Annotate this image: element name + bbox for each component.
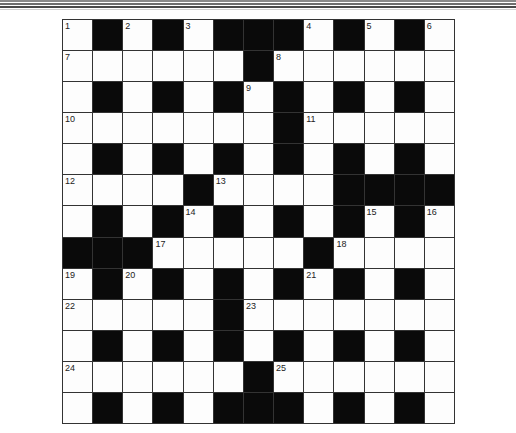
crossword-cell[interactable]: 15 [365,206,394,236]
crossword-cell[interactable] [63,82,92,112]
crossword-cell[interactable] [93,113,122,143]
crossword-cell[interactable] [304,331,333,361]
crossword-cell[interactable] [123,393,152,423]
crossword-cell[interactable] [274,238,303,268]
crossword-cell[interactable]: 21 [304,269,333,299]
crossword-cell[interactable]: 6 [425,20,454,50]
crossword-cell[interactable]: 8 [274,51,303,81]
crossword-cell[interactable] [425,82,454,112]
crossword-cell[interactable] [153,300,182,330]
crossword-cell[interactable] [425,300,454,330]
crossword-cell[interactable] [304,51,333,81]
crossword-cell[interactable] [93,51,122,81]
crossword-cell[interactable] [184,51,213,81]
crossword-cell[interactable]: 22 [63,300,92,330]
crossword-cell[interactable] [184,113,213,143]
crossword-cell[interactable] [304,82,333,112]
crossword-cell[interactable] [274,300,303,330]
crossword-cell[interactable]: 19 [63,269,92,299]
crossword-cell[interactable] [304,300,333,330]
crossword-cell[interactable] [153,113,182,143]
crossword-cell[interactable]: 13 [214,175,243,205]
crossword-cell[interactable] [63,393,92,423]
crossword-cell[interactable] [365,82,394,112]
crossword-cell[interactable] [123,175,152,205]
crossword-cell[interactable] [395,362,424,392]
crossword-cell[interactable] [395,300,424,330]
crossword-cell[interactable] [304,393,333,423]
crossword-cell[interactable]: 2 [123,20,152,50]
crossword-cell[interactable] [244,331,273,361]
crossword-cell[interactable] [214,113,243,143]
crossword-cell[interactable] [395,238,424,268]
crossword-cell[interactable] [184,300,213,330]
crossword-cell[interactable] [304,175,333,205]
crossword-cell[interactable] [365,300,394,330]
crossword-cell[interactable]: 5 [365,20,394,50]
crossword-cell[interactable] [123,331,152,361]
crossword-cell[interactable] [93,175,122,205]
crossword-cell[interactable] [123,51,152,81]
crossword-cell[interactable] [214,238,243,268]
crossword-cell[interactable] [425,331,454,361]
crossword-cell[interactable] [63,331,92,361]
crossword-cell[interactable] [184,331,213,361]
crossword-cell[interactable] [93,300,122,330]
crossword-cell[interactable] [214,362,243,392]
crossword-cell[interactable] [184,238,213,268]
crossword-cell[interactable] [123,300,152,330]
crossword-cell[interactable] [395,113,424,143]
crossword-cell[interactable]: 4 [304,20,333,50]
crossword-cell[interactable] [365,238,394,268]
crossword-cell[interactable] [425,393,454,423]
crossword-cell[interactable] [63,144,92,174]
crossword-cell[interactable] [334,362,363,392]
crossword-cell[interactable] [184,144,213,174]
crossword-cell[interactable] [365,331,394,361]
crossword-cell[interactable]: 23 [244,300,273,330]
crossword-cell[interactable] [93,362,122,392]
crossword-cell[interactable] [153,175,182,205]
crossword-cell[interactable] [425,238,454,268]
crossword-cell[interactable] [304,362,333,392]
crossword-cell[interactable]: 16 [425,206,454,236]
crossword-cell[interactable] [63,206,92,236]
crossword-cell[interactable] [123,362,152,392]
crossword-cell[interactable]: 24 [63,362,92,392]
crossword-cell[interactable] [365,144,394,174]
crossword-cell[interactable]: 18 [334,238,363,268]
crossword-cell[interactable] [365,362,394,392]
crossword-cell[interactable] [425,51,454,81]
crossword-cell[interactable] [395,51,424,81]
crossword-cell[interactable] [425,144,454,174]
crossword-cell[interactable] [425,362,454,392]
crossword-cell[interactable]: 25 [274,362,303,392]
crossword-cell[interactable] [153,362,182,392]
crossword-cell[interactable]: 14 [184,206,213,236]
crossword-cell[interactable]: 10 [63,113,92,143]
crossword-cell[interactable] [274,175,303,205]
crossword-cell[interactable] [425,113,454,143]
crossword-cell[interactable] [244,238,273,268]
crossword-cell[interactable] [244,113,273,143]
crossword-cell[interactable] [334,300,363,330]
crossword-cell[interactable] [214,51,243,81]
crossword-cell[interactable] [304,144,333,174]
crossword-cell[interactable] [184,362,213,392]
crossword-cell[interactable] [123,144,152,174]
crossword-cell[interactable]: 17 [153,238,182,268]
crossword-cell[interactable] [123,206,152,236]
crossword-cell[interactable] [334,51,363,81]
crossword-cell[interactable] [365,393,394,423]
crossword-cell[interactable] [244,269,273,299]
crossword-cell[interactable]: 11 [304,113,333,143]
crossword-cell[interactable] [184,393,213,423]
crossword-cell[interactable] [184,269,213,299]
crossword-cell[interactable]: 9 [244,82,273,112]
crossword-cell[interactable] [244,175,273,205]
crossword-cell[interactable] [123,82,152,112]
crossword-cell[interactable] [334,113,363,143]
crossword-cell[interactable]: 3 [184,20,213,50]
crossword-cell[interactable]: 12 [63,175,92,205]
crossword-cell[interactable] [425,269,454,299]
